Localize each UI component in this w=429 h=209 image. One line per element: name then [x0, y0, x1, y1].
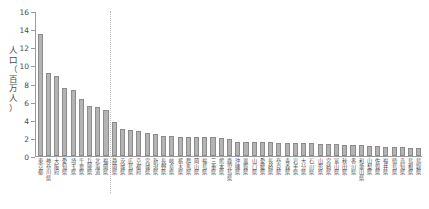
bar-column[interactable]: [293, 11, 298, 156]
bar-column[interactable]: [326, 11, 331, 156]
bar-column[interactable]: [235, 11, 240, 156]
x-tick-label: 北 海 道: [94, 159, 102, 176]
bar-column[interactable]: [153, 11, 158, 156]
bar[interactable]: [186, 137, 191, 156]
bar[interactable]: [260, 142, 265, 156]
bar-column[interactable]: [416, 11, 421, 156]
bar[interactable]: [120, 129, 125, 156]
bar-column[interactable]: [227, 11, 232, 156]
bar[interactable]: [112, 122, 117, 156]
bar-column[interactable]: [87, 11, 92, 156]
bar-column[interactable]: [210, 11, 215, 156]
bar-column[interactable]: [95, 11, 100, 156]
bar[interactable]: [54, 76, 59, 156]
bar[interactable]: [62, 88, 67, 156]
x-tick-label: 大 阪 府: [52, 159, 60, 176]
bar[interactable]: [301, 143, 306, 156]
bar[interactable]: [342, 145, 347, 157]
bar[interactable]: [293, 143, 298, 156]
bar[interactable]: [400, 147, 405, 156]
bar[interactable]: [202, 137, 207, 156]
bar[interactable]: [318, 144, 323, 156]
bar-column[interactable]: [334, 11, 339, 156]
bar[interactable]: [210, 137, 215, 156]
bar-column[interactable]: [46, 11, 51, 156]
bar[interactable]: [392, 147, 397, 156]
bar-column[interactable]: [260, 11, 265, 156]
bar-column[interactable]: [392, 11, 397, 156]
bar-column[interactable]: [145, 11, 150, 156]
bar[interactable]: [235, 142, 240, 156]
bar-column[interactable]: [342, 11, 347, 156]
bar[interactable]: [38, 34, 43, 156]
bar[interactable]: [359, 145, 364, 156]
bar-column[interactable]: [103, 11, 108, 156]
bar[interactable]: [103, 110, 108, 156]
bar[interactable]: [178, 137, 183, 156]
bar[interactable]: [285, 143, 290, 156]
bar-column[interactable]: [202, 11, 207, 156]
bar-column[interactable]: [161, 11, 166, 156]
bar[interactable]: [136, 131, 141, 156]
bar[interactable]: [161, 136, 166, 156]
bar[interactable]: [95, 107, 100, 156]
bar[interactable]: [227, 139, 232, 156]
bar-column[interactable]: [243, 11, 248, 156]
y-tick-mark: [31, 103, 35, 104]
bar-column[interactable]: [400, 11, 405, 156]
bar[interactable]: [194, 137, 199, 156]
bar-column[interactable]: [252, 11, 257, 156]
bar-column[interactable]: [318, 11, 323, 156]
bar-column[interactable]: [350, 11, 355, 156]
x-tick-label: 長 崎 県: [267, 159, 275, 176]
bar-column[interactable]: [219, 11, 224, 156]
bar-column[interactable]: [301, 11, 306, 156]
bar-column[interactable]: [62, 11, 67, 156]
bar[interactable]: [408, 148, 413, 156]
bar[interactable]: [46, 73, 51, 156]
bar-column[interactable]: [268, 11, 273, 156]
bar[interactable]: [276, 143, 281, 157]
bar-column[interactable]: [136, 11, 141, 156]
bar[interactable]: [326, 144, 331, 156]
bar-column[interactable]: [383, 11, 388, 156]
bar[interactable]: [334, 144, 339, 156]
bar[interactable]: [71, 90, 76, 156]
bar[interactable]: [416, 148, 421, 156]
bar[interactable]: [383, 147, 388, 156]
bar[interactable]: [309, 143, 314, 156]
bar-column[interactable]: [375, 11, 380, 156]
bar-column[interactable]: [169, 11, 174, 156]
bar[interactable]: [128, 130, 133, 156]
bar[interactable]: [79, 99, 84, 156]
bar-column[interactable]: [112, 11, 117, 156]
bar-column[interactable]: [359, 11, 364, 156]
bar-column[interactable]: [54, 11, 59, 156]
bar[interactable]: [243, 142, 248, 156]
bar[interactable]: [153, 134, 158, 156]
bar[interactable]: [169, 136, 174, 156]
bar[interactable]: [367, 146, 372, 156]
bar-column[interactable]: [71, 11, 76, 156]
bar[interactable]: [87, 106, 92, 156]
bar-column[interactable]: [276, 11, 281, 156]
bar[interactable]: [268, 142, 273, 156]
bar[interactable]: [350, 145, 355, 156]
bar-column[interactable]: [367, 11, 372, 156]
bar-column[interactable]: [186, 11, 191, 156]
bar-column[interactable]: [128, 11, 133, 156]
bar[interactable]: [252, 142, 257, 156]
x-tick-label: 滋 賀 県: [242, 159, 250, 176]
y-tick-mark: [31, 139, 35, 140]
bar-column[interactable]: [309, 11, 314, 156]
bar[interactable]: [219, 138, 224, 156]
bar-column[interactable]: [79, 11, 84, 156]
bar[interactable]: [375, 146, 380, 156]
bar-column[interactable]: [38, 11, 43, 156]
bar-column[interactable]: [408, 11, 413, 156]
bar[interactable]: [145, 133, 150, 156]
bar-column[interactable]: [194, 11, 199, 156]
bar-column[interactable]: [178, 11, 183, 156]
bar-column[interactable]: [120, 11, 125, 156]
bar-column[interactable]: [285, 11, 290, 156]
